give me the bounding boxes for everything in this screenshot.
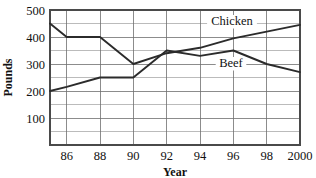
x-tick-label: 96 xyxy=(227,149,240,163)
line-chart: 100200300400500 868890929496982000 Pound… xyxy=(0,0,316,178)
x-tick-label: 88 xyxy=(94,149,107,163)
x-axis-title: Year xyxy=(163,165,188,178)
chart-canvas: 100200300400500 868890929496982000 Pound… xyxy=(0,0,316,178)
x-tick-label: 92 xyxy=(160,149,173,163)
y-tick-label: 400 xyxy=(26,31,45,45)
series-label-beef: Beef xyxy=(219,56,243,70)
y-tick-label: 100 xyxy=(26,112,45,126)
x-tick-label: 94 xyxy=(194,149,207,163)
y-tick-label: 200 xyxy=(26,85,45,99)
y-tick-label: 500 xyxy=(26,4,45,18)
x-tick-label: 98 xyxy=(260,149,273,163)
x-tick-label: 90 xyxy=(127,149,140,163)
y-axis-title: Pounds xyxy=(1,58,15,96)
y-tick-label: 300 xyxy=(26,58,45,72)
x-tick-label: 86 xyxy=(60,149,73,163)
x-tick-label: 2000 xyxy=(288,149,313,163)
series-label-chicken: Chicken xyxy=(211,14,253,28)
